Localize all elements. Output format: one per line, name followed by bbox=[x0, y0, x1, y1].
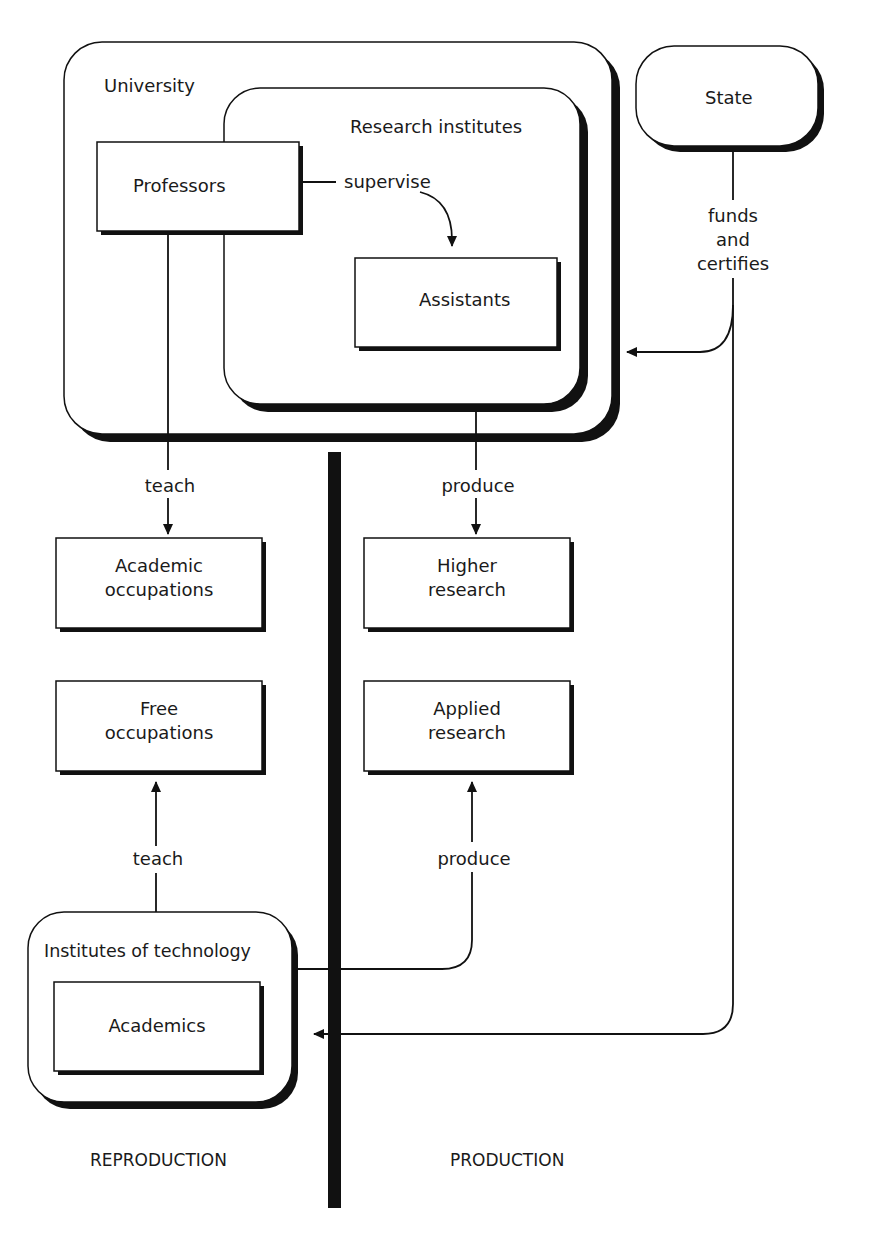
diagram-canvas bbox=[0, 0, 871, 1248]
produce-bottom-label: produce bbox=[430, 847, 518, 871]
funds-and-certifies-label: funds and certifies bbox=[693, 204, 773, 276]
state-label: State bbox=[705, 86, 753, 110]
research-text: research bbox=[364, 721, 570, 745]
supervise-label: supervise bbox=[344, 170, 431, 194]
funds-to-university-arrow bbox=[627, 305, 733, 352]
applied-research-label: Applied research bbox=[364, 697, 570, 745]
reproduction-section-label: REPRODUCTION bbox=[90, 1148, 227, 1172]
occupations-text: occupations bbox=[56, 578, 262, 602]
certifies-text: certifies bbox=[693, 252, 773, 276]
produce-top-label: produce bbox=[434, 474, 522, 498]
higher-text: Higher bbox=[364, 554, 570, 578]
institutes-of-technology-label: Institutes of technology bbox=[44, 939, 251, 963]
research-institutes-label: Research institutes bbox=[350, 115, 522, 139]
produce-connector bbox=[296, 872, 472, 969]
production-divider bbox=[328, 452, 341, 1208]
professors-label: Professors bbox=[133, 174, 226, 198]
occupations-text: occupations bbox=[56, 721, 262, 745]
funds-text: funds bbox=[693, 204, 773, 228]
research-text: research bbox=[364, 578, 570, 602]
free-text: Free bbox=[56, 697, 262, 721]
production-section-label: PRODUCTION bbox=[450, 1148, 564, 1172]
higher-research-label: Higher research bbox=[364, 554, 570, 602]
assistants-label: Assistants bbox=[419, 288, 510, 312]
university-label: University bbox=[104, 74, 195, 98]
academic-occupations-label: Academic occupations bbox=[56, 554, 262, 602]
and-text: and bbox=[693, 228, 773, 252]
free-occupations-label: Free occupations bbox=[56, 697, 262, 745]
teach-top-label: teach bbox=[140, 474, 200, 498]
teach-bottom-label: teach bbox=[128, 847, 188, 871]
academics-label: Academics bbox=[54, 1014, 260, 1038]
academic-text: Academic bbox=[56, 554, 262, 578]
applied-text: Applied bbox=[364, 697, 570, 721]
